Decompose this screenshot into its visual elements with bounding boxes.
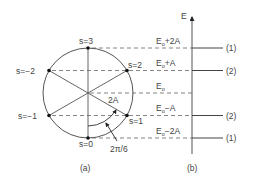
label-s3: s=3: [79, 36, 93, 46]
energy-axis-label: E: [181, 11, 187, 21]
label-sm1: s=−1: [18, 111, 37, 121]
point-s3: [86, 46, 90, 50]
energy-label-2: Eo+A: [156, 58, 176, 69]
label-coupling-2A: 2A: [108, 95, 119, 105]
degeneracy-level-1: (1): [226, 43, 237, 53]
degeneracy-level-2: (2): [226, 66, 237, 76]
label-s0: s=0: [79, 139, 93, 149]
point-sm2: [47, 69, 51, 73]
energy-label-1: Eo+2A: [156, 36, 180, 47]
label-s1: s=1: [129, 116, 143, 126]
energy-levels: [192, 48, 223, 138]
degeneracy-level-4: (2): [226, 111, 237, 121]
huckel-energy-diagram: s=3 s=2 s=1 s=0 s=−1 s=−2 2A 2π/6 (a) E …: [0, 0, 254, 187]
label-s2: s=2: [128, 60, 142, 70]
label-angle: 2π/6: [110, 144, 128, 154]
label-sm2: s=−2: [16, 66, 35, 76]
point-sm1: [47, 114, 51, 118]
caption-a: (a): [80, 163, 91, 173]
degeneracy-level-5: (1): [226, 133, 237, 143]
energy-label-4: Eo−A: [156, 103, 176, 114]
energy-label-3: Eo: [156, 81, 165, 92]
caption-b: (b): [187, 163, 198, 173]
spokes: [49, 48, 127, 138]
angle-arc: [88, 110, 116, 126]
energy-label-5: Eo−2A: [156, 126, 180, 137]
